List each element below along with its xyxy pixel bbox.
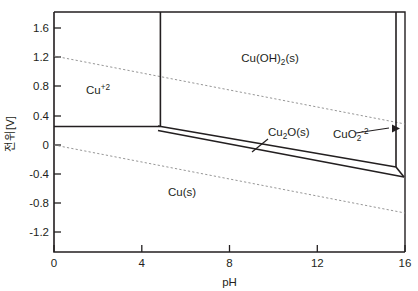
label-cu2o: Cu2O(s) bbox=[268, 126, 310, 141]
y-tick-label-0: 0 bbox=[43, 139, 49, 151]
label-cuo2-superscript: -2 bbox=[361, 127, 369, 136]
phase-boundaries bbox=[54, 12, 404, 177]
pourbaix-chart-svg: 1.6 1.2 0.8 0.4 0 -0.4 -0.8 -1.2 0 4 8 1… bbox=[0, 0, 418, 291]
x-tick-label-12: 12 bbox=[311, 257, 324, 269]
y-tick-label-0.4: 0.4 bbox=[33, 110, 50, 122]
y-axis-tick-labels: 1.6 1.2 0.8 0.4 0 -0.4 -0.8 -1.2 bbox=[29, 22, 49, 238]
x-tick-label-8: 8 bbox=[226, 257, 232, 269]
label-cu2o-b: O(s) bbox=[287, 126, 310, 138]
x-tick-label-16: 16 bbox=[399, 257, 412, 269]
x-tick-label-0: 0 bbox=[51, 257, 57, 269]
y-tick-label--0.8: -0.8 bbox=[29, 197, 49, 209]
x-axis-title: pH bbox=[222, 276, 237, 288]
label-cu2plus-superscript: +2 bbox=[101, 83, 111, 92]
label-cuo2-a: CuO bbox=[333, 128, 357, 140]
water-lower-line bbox=[54, 145, 405, 213]
y-axis-title: 전위[V] bbox=[4, 116, 16, 152]
label-cu2plus-base: Cu bbox=[86, 84, 101, 96]
label-cuoh2-b: (s) bbox=[285, 52, 299, 64]
pourbaix-diagram-figure: 1.6 1.2 0.8 0.4 0 -0.4 -0.8 -1.2 0 4 8 1… bbox=[0, 0, 418, 291]
y-tick-label--0.4: -0.4 bbox=[29, 168, 49, 180]
y-tick-label-1.6: 1.6 bbox=[33, 22, 49, 34]
label-cu-hydroxide: Cu(OH)2(s) bbox=[241, 52, 299, 67]
x-axis-tick-labels: 0 4 8 12 16 bbox=[51, 257, 412, 269]
label-cuo2-ion: CuO2-2 bbox=[333, 127, 369, 143]
x-tick-label-4: 4 bbox=[139, 257, 146, 269]
y-tick-label-1.2: 1.2 bbox=[33, 51, 49, 63]
y-tick-label-0.8: 0.8 bbox=[33, 80, 49, 92]
x-axis-ticks bbox=[54, 245, 405, 252]
y-tick-label--1.2: -1.2 bbox=[29, 226, 49, 238]
label-cu2plus: Cu+2 bbox=[86, 83, 110, 96]
label-cu-solid: Cu(s) bbox=[168, 186, 196, 198]
y-axis-ticks bbox=[54, 28, 61, 232]
label-cuoh2-a: Cu(OH) bbox=[241, 52, 281, 64]
phase-region-labels: Cu+2 Cu(OH)2(s) Cu2O(s) CuO2-2 Cu(s) bbox=[86, 52, 369, 198]
label-cu2o-a: Cu bbox=[268, 126, 283, 138]
